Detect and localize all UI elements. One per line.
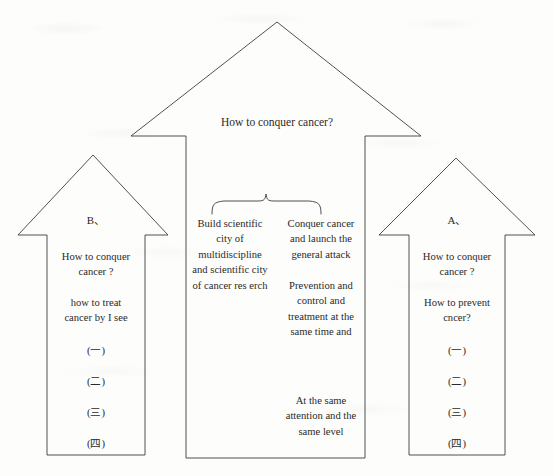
right-arrow-letter: A、 xyxy=(414,213,500,228)
right-arrow-enum-4: (四) xyxy=(417,436,497,451)
left-arrow-block-2: how to treat cancer by I see xyxy=(44,295,148,326)
center-right-column-block-2: Prevention and control and treatment at … xyxy=(272,278,370,340)
left-arrow-block-1: How to conquer cancer ? xyxy=(44,249,148,280)
center-left-column-block-1: Build scientific city of multidiscipline… xyxy=(181,216,279,293)
left-arrow-letter: B、 xyxy=(53,213,139,228)
brace-icon xyxy=(212,194,321,214)
left-arrow-enum-1: (一) xyxy=(56,343,136,358)
figure-canvas: How to conquer cancer? B、 How to conquer… xyxy=(0,0,554,476)
left-arrow-enum-3: (三) xyxy=(56,405,136,420)
right-arrow-enum-3: (三) xyxy=(417,405,497,420)
right-arrow-block-1: How to conquer cancer ? xyxy=(405,249,509,280)
right-arrow-enum-1: (一) xyxy=(417,343,497,358)
center-right-column-block-1: Conquer cancer and launch the general at… xyxy=(272,216,370,262)
right-arrow-block-2: How to prevent cncer? xyxy=(405,295,509,326)
right-arrow-enum-2: (二) xyxy=(417,374,497,389)
left-arrow-enum-4: (四) xyxy=(56,436,136,451)
center-right-column-block-3: At the same attention and the same level xyxy=(272,393,370,439)
left-arrow-enum-2: (二) xyxy=(56,374,136,389)
top-arrow-label: How to conquer cancer? xyxy=(177,115,377,130)
